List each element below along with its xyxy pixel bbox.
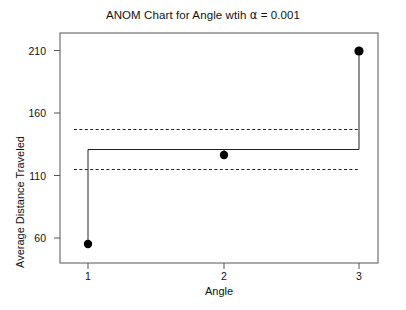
y-axis-ticks [54,51,60,239]
data-stems [88,51,359,244]
data-point-angle-1[interactable] [84,240,92,248]
data-points [84,46,364,248]
data-point-angle-2[interactable] [220,151,228,159]
plot-area [0,0,406,310]
x-axis-ticks [88,263,359,269]
data-point-angle-3[interactable] [354,46,363,55]
anom-chart: ANOM Chart for Angle wtih α = 0.001 Aver… [0,0,406,310]
plot-frame [60,33,378,263]
